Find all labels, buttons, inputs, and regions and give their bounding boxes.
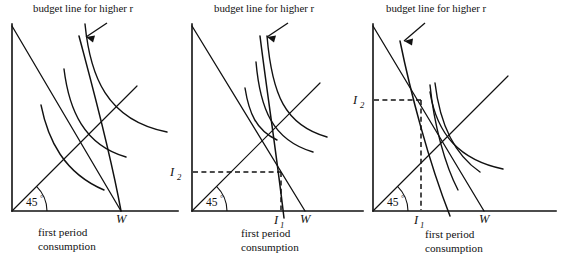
- panel-1-caption-line1: first period: [38, 226, 88, 238]
- panel-1-angle-degree-symbol: °: [40, 194, 43, 203]
- panel-1-indifference-curve-low: [41, 105, 104, 190]
- panel-3-original-budget-line: [373, 26, 484, 211]
- panel-2: budget line for higher r 45 ° I 2 I 1: [169, 2, 363, 253]
- panel-3-wealth-label: W: [479, 212, 491, 226]
- economics-diagram-figure: budget line for higher r 45 ° W first pe…: [0, 0, 563, 265]
- panel-3-indifference-curve-high: [430, 92, 503, 169]
- panel-1-indifference-curve-high: [85, 24, 167, 132]
- panel-2-I1-label: I: [273, 213, 279, 227]
- panel-3-I2-subscript: 2: [360, 100, 365, 110]
- panel-2-angle-degree-symbol: °: [220, 194, 223, 203]
- panel-1: budget line for higher r 45 ° W first pe…: [12, 2, 178, 252]
- panel-2-caption-line1: first period: [241, 227, 291, 239]
- panel-1-budget-line-title: budget line for higher r: [33, 2, 134, 14]
- panel-2-wealth-label: W: [300, 212, 312, 226]
- panel-3: budget line for higher r 45 ° I 2 I 1: [352, 2, 556, 254]
- panel-3-caption-line2: consumption: [425, 242, 483, 254]
- three-panel-budget-line-svg: budget line for higher r 45 ° W first pe…: [0, 0, 563, 265]
- panel-2-angle-label: 45: [206, 196, 218, 208]
- panel-3-I1-label: I: [413, 213, 419, 227]
- panel-1-caption-line2: consumption: [38, 240, 96, 252]
- panel-1-wealth-label: W: [116, 212, 128, 226]
- panel-3-indifference-curve-low: [430, 85, 458, 190]
- panel-1-angle-label: 45: [26, 196, 38, 208]
- panel-1-indifference-curve-mid: [64, 69, 126, 157]
- panel-1-forty-five-degree-ray: [13, 86, 137, 210]
- panel-3-caption-line1: first period: [425, 228, 475, 240]
- panel-3-I1-subscript: 1: [420, 220, 424, 230]
- panel-2-budget-line-title: budget line for higher r: [214, 2, 315, 14]
- panel-3-angle-label: 45: [387, 196, 399, 208]
- panel-2-indifference-curve-high: [267, 36, 327, 137]
- panel-2-forty-five-degree-ray: [193, 83, 320, 210]
- panel-3-I2-label: I: [352, 93, 358, 107]
- panel-1-annotation-arrow: [86, 23, 107, 43]
- panel-2-I2-subscript: 2: [177, 172, 182, 182]
- panel-3-angle-degree-symbol: °: [401, 194, 404, 203]
- panel-2-caption-line2: consumption: [241, 241, 299, 253]
- panel-2-original-budget-line: [192, 26, 305, 211]
- panel-2-annotation-arrow: [267, 23, 288, 43]
- panel-3-annotation-arrow: [404, 23, 425, 46]
- panel-3-budget-line-title: budget line for higher r: [386, 2, 487, 14]
- panel-2-I2-label: I: [169, 165, 175, 179]
